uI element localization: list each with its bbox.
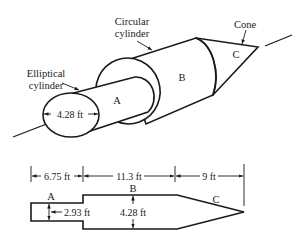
elliptical-label-line2: cylinder (29, 80, 64, 91)
composite-body-diagram: 4.28 ft A B C Elliptical cylinder Circul… (0, 0, 306, 242)
cone-leader (242, 30, 246, 44)
height-a-label: 2.93 ft (64, 207, 90, 218)
isometric-view: 4.28 ft A B C Elliptical cylinder Circul… (13, 16, 292, 137)
side-part-c-label: C (212, 194, 219, 205)
elliptical-leader (62, 83, 79, 90)
ellipse-width-label: 4.28 ft (57, 109, 83, 120)
side-view: 6.75 ft 11.3 ft 9 ft A B C 2.93 ft 4.28 … (31, 164, 244, 229)
circular-label-line1: Circular (115, 16, 150, 27)
axis-line-right (265, 35, 292, 46)
cone-label: Cone (234, 19, 257, 30)
part-c-label: C (232, 49, 239, 60)
side-part-b-label: B (129, 183, 136, 194)
part-b-label: B (178, 72, 185, 83)
length-b-label: 11.3 ft (116, 171, 142, 182)
side-part-a-label: A (47, 191, 55, 202)
elliptical-label-line1: Elliptical (27, 68, 66, 79)
height-b-label: 4.28 ft (120, 207, 146, 218)
length-a-label: 6.75 ft (44, 171, 70, 182)
part-a-label: A (113, 95, 121, 106)
length-c-label: 9 ft (202, 171, 216, 182)
circular-leader (137, 41, 152, 50)
circular-label-line2: cylinder (115, 28, 150, 39)
